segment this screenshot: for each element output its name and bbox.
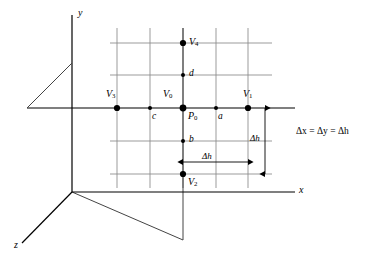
node-label-V2: V2 [188, 177, 198, 188]
node-label-a: a [218, 112, 223, 122]
plane-edge-upper-left [27, 63, 72, 108]
node-dot-V2 [180, 171, 186, 177]
node-label-P0: P0 [188, 111, 198, 122]
node-dot-V4 [180, 40, 186, 46]
node-dot-b [181, 139, 185, 143]
node-dot-a [214, 106, 218, 110]
node-label-b: b [189, 135, 194, 145]
y-axis-label: y [78, 8, 82, 18]
node-dot-V3 [114, 105, 120, 111]
x-axis-label: x [299, 185, 303, 195]
z-axis-line [22, 192, 72, 243]
node-label-V4: V4 [189, 37, 199, 48]
node-label-V3: V3 [106, 89, 116, 100]
node-dot-V1 [245, 105, 251, 111]
node-label-c: c [152, 112, 156, 122]
node-label-V0: V0 [163, 89, 173, 100]
node-dot-d [181, 73, 185, 77]
plane-edge-lower-right [72, 192, 183, 240]
node-dot-P0 [180, 105, 187, 112]
node-dot-c [148, 106, 152, 110]
equation-delta-relation: Δx = Δy = Δh [296, 126, 349, 136]
dimension-label-vertical: Δh [250, 134, 260, 143]
node-label-V1: V1 [243, 89, 253, 100]
z-axis-label: z [14, 240, 18, 250]
dimension-label-horizontal: Δh [202, 152, 212, 161]
figure-container: y x z V4 d V3 c P0 V0 a V1 b V2 Δh Δh Δx… [0, 0, 369, 265]
node-label-d: d [189, 69, 194, 79]
